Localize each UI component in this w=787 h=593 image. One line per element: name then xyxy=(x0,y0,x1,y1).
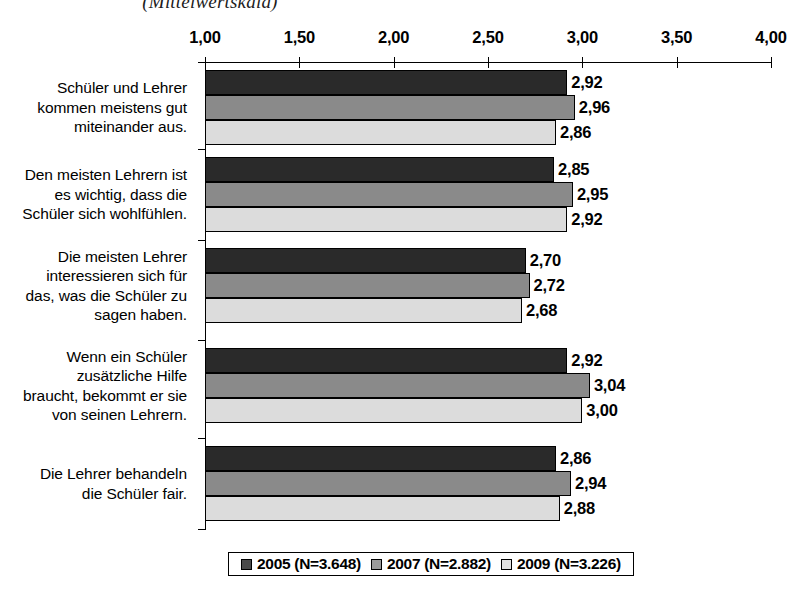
bar-value-label: 2,95 xyxy=(577,185,608,204)
bar-value-label: 2,92 xyxy=(571,73,602,92)
legend-label: 2005 (N=3.648) xyxy=(257,555,361,573)
category-tick-mark xyxy=(198,529,206,530)
category-label: Die Lehrer behandeln die Schüler fair. xyxy=(0,464,197,503)
bar-value-label: 2,94 xyxy=(575,474,606,493)
bar-value-label: 2,88 xyxy=(564,499,595,518)
category-label: Schüler und Lehrer kommen meistens gut m… xyxy=(0,78,197,137)
bar xyxy=(205,157,554,182)
bar-value-label: 2,86 xyxy=(560,123,591,142)
category-tick-mark xyxy=(198,62,206,63)
legend-entry: 2007 (N=2.882) xyxy=(371,555,491,573)
legend-entry: 2005 (N=3.648) xyxy=(241,555,361,573)
x-axis-tick-mark xyxy=(488,57,489,68)
legend-entry: 2009 (N=3.226) xyxy=(501,555,621,573)
x-axis-tick-mark xyxy=(394,57,395,68)
bar xyxy=(205,373,590,398)
x-axis-tick-mark xyxy=(771,57,772,68)
bar-value-label: 2,70 xyxy=(530,251,561,270)
category-tick-mark xyxy=(198,340,206,341)
x-axis-tick-label: 1,50 xyxy=(284,28,315,47)
x-axis-tick-mark xyxy=(677,57,678,68)
x-axis-tick-label: 1,00 xyxy=(189,28,220,47)
legend-label: 2009 (N=3.226) xyxy=(517,555,621,573)
bar xyxy=(205,348,567,373)
category-label-column: Schüler und Lehrer kommen meistens gut m… xyxy=(0,62,197,539)
bar xyxy=(205,446,556,471)
bar xyxy=(205,207,567,232)
bar-value-label: 2,72 xyxy=(534,276,565,295)
category-label: Den meisten Lehrern ist es wichtig, dass… xyxy=(0,165,197,224)
bar xyxy=(205,298,522,323)
chart-legend: 2005 (N=3.648)2007 (N=2.882)2009 (N=3.22… xyxy=(228,552,634,576)
bar-value-label: 2,86 xyxy=(560,449,591,468)
bar-value-label: 2,92 xyxy=(571,351,602,370)
bar xyxy=(205,248,526,273)
x-axis-tick-mark xyxy=(582,57,583,68)
bar xyxy=(205,182,573,207)
x-axis-tick-label: 4,00 xyxy=(755,28,786,47)
x-axis-tick-label: 2,00 xyxy=(378,28,409,47)
x-axis-tick-label: 2,50 xyxy=(472,28,503,47)
category-tick-mark xyxy=(198,438,206,439)
bar-value-label: 2,68 xyxy=(526,301,557,320)
x-axis-tick-label: 3,00 xyxy=(567,28,598,47)
legend-swatch xyxy=(241,559,252,570)
x-axis-tick-label: 3,50 xyxy=(661,28,692,47)
legend-label: 2007 (N=2.882) xyxy=(387,555,491,573)
x-axis-tick-mark xyxy=(299,57,300,68)
category-tick-mark xyxy=(198,149,206,150)
legend-swatch xyxy=(371,559,382,570)
bar-value-label: 2,92 xyxy=(571,210,602,229)
x-axis-tick-labels: 1,001,502,002,503,003,504,00 xyxy=(0,28,784,50)
bar xyxy=(205,273,530,298)
bar-value-label: 3,04 xyxy=(594,376,625,395)
bar xyxy=(205,120,556,145)
bar xyxy=(205,398,582,423)
chart-title: (Mittelwertskala) xyxy=(0,0,420,13)
bar xyxy=(205,496,560,521)
bar-value-label: 2,96 xyxy=(579,98,610,117)
legend-swatch xyxy=(501,559,512,570)
plot-area: 2,922,962,862,852,952,922,702,722,682,92… xyxy=(205,62,771,539)
bar-value-label: 3,00 xyxy=(586,401,617,420)
bar-value-label: 2,85 xyxy=(558,160,589,179)
category-label: Die meisten Lehrer interessieren sich fü… xyxy=(0,247,197,325)
bar xyxy=(205,70,567,95)
category-tick-mark xyxy=(198,240,206,241)
category-label: Wenn ein Schüler zusätzliche Hilfe brauc… xyxy=(0,347,197,425)
bar xyxy=(205,471,571,496)
bar xyxy=(205,95,575,120)
